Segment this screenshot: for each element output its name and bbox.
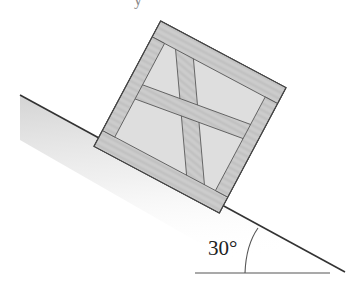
angle-label: 30°: [208, 236, 237, 261]
incline-diagram: [0, 0, 358, 284]
